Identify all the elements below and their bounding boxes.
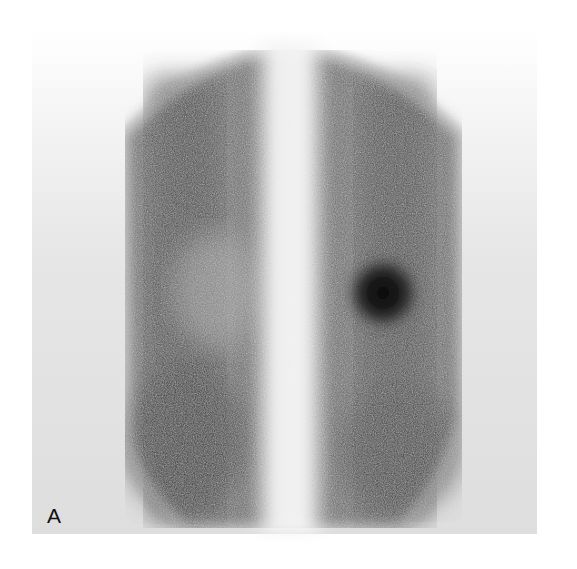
central-column [250, 40, 330, 535]
panel-label: A [47, 505, 61, 526]
scintigraphy-scan-image [0, 0, 577, 569]
hot-spot-lesion [345, 255, 421, 331]
